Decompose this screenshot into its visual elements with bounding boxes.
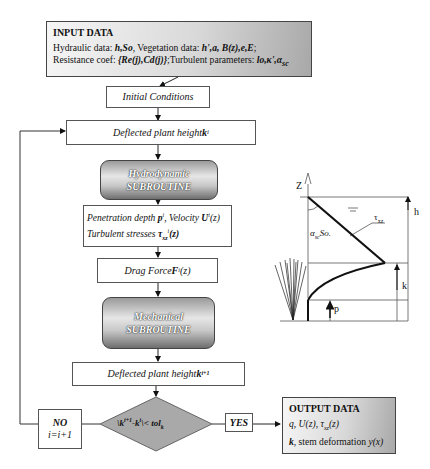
yes-branch-box: YES [225,413,253,432]
velocity-stress-profile [280,173,408,321]
z-axis-label: Z [296,180,302,191]
initial-conditions-box: Initial Conditions [106,86,210,108]
p-label: p [334,303,339,314]
tau-label: τxz [374,212,383,224]
input-line-resistance: Resistance coef: {Re(j),Cd(j)};Turbulent… [53,54,305,70]
hydrodynamic-subroutine-box: HydrodynamicSUBROUTINE [100,160,218,200]
mechanical-subroutine-box: MechanicalSUBROUTINE [102,297,215,349]
h-label: h [414,206,419,217]
k-label: k [402,280,407,291]
penetration-velocity-box: Penetration depth pi, Velocity Ui(z) Tur… [83,205,232,247]
deflected-height-box: Deflected plant height ki [66,120,256,145]
output-data-box: OUTPUT DATA q, U(z), τxz(z) k, stem defo… [282,397,396,454]
convergence-condition: \ki+1-ki\< tolk [117,417,164,430]
alpha-label: αscSo. [310,228,331,240]
drag-force-box: Drag Force Fi(z) [97,258,218,283]
input-data-box: INPUT DATA Hydraulic data: h,So, Vegetat… [46,21,312,77]
deflected-height-next-box: Deflected plant height ki+1 [72,362,245,386]
input-title: INPUT DATA [53,27,305,39]
input-line-hydraulic: Hydraulic data: h,So, Vegetation data: h… [53,42,305,54]
plant-illustration [275,258,306,320]
no-branch-box: NOi=i+1 [38,409,82,449]
